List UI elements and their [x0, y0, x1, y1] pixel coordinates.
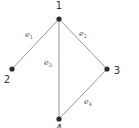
vertex-1	[56, 16, 61, 21]
vertex-label-4: 4	[56, 123, 62, 128]
edge-e2	[59, 19, 107, 69]
vertex-4	[56, 116, 61, 121]
edge-label-e2: e2	[79, 29, 87, 39]
vertex-label-1: 1	[56, 0, 62, 11]
vertex-2	[9, 66, 14, 71]
edge-label-e4: e4	[84, 97, 92, 107]
edge-label-e3: e3	[44, 58, 52, 68]
vertex-3	[104, 66, 109, 71]
edge-label-e1: e1	[25, 30, 33, 40]
vertex-label-2: 2	[4, 74, 10, 85]
edge-e4	[59, 69, 107, 119]
vertex-label-3: 3	[114, 65, 120, 76]
graph-diagram: e1e2e3e41234	[0, 0, 139, 128]
